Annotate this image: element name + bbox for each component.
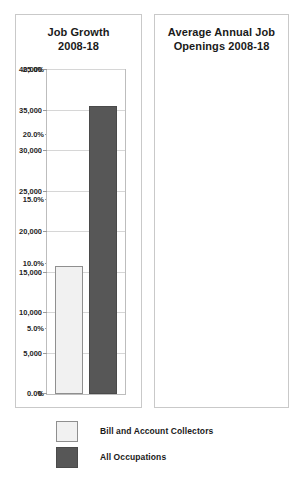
- bar-all-occupations: [89, 106, 117, 394]
- chart-figure: Job Growth 2008-18 0.0%5.0%10.0%15.0%20.…: [0, 0, 304, 486]
- legend-item-label: All Occupations: [100, 452, 166, 462]
- chart-title-line-1: Job Growth: [47, 26, 109, 38]
- legend-swatch-icon: [56, 421, 78, 442]
- chart-title-job-growth: Job Growth 2008-18: [16, 25, 141, 53]
- chart-panel-job-openings: Average Annual Job Openings 2008-18: [154, 14, 289, 408]
- y-axis-tick-label: 30,000: [19, 147, 42, 155]
- y-axis-tick-mark: [43, 393, 47, 394]
- plot-area-job-openings: 05,00010,00015,00020,00025,00030,00035,0…: [46, 69, 126, 395]
- y-axis-tick-label: 20.0%: [23, 131, 44, 139]
- y-axis-tick-label: 0: [38, 390, 42, 398]
- legend-item-all-occupations: All Occupations: [56, 444, 286, 470]
- y-axis-tick-label: 20,000: [19, 228, 42, 236]
- gridline: [47, 69, 125, 70]
- y-axis-tick-mark: [43, 312, 47, 313]
- y-axis-tick-label: 5,000: [23, 350, 42, 358]
- legend-item-bill-and-account-collectors: Bill and Account Collectors: [56, 418, 286, 444]
- y-axis-tick-mark: [43, 231, 47, 232]
- y-axis-tick-mark: [43, 272, 47, 273]
- y-axis-tick-label: 5.0%: [27, 325, 44, 333]
- y-axis-tick-label: 15,000: [19, 269, 42, 277]
- y-axis-tick-mark: [43, 69, 47, 70]
- chart-title-job-openings: Average Annual Job Openings 2008-18: [155, 25, 288, 53]
- bar-bill-and-account-collectors: [55, 266, 83, 394]
- y-axis-tick-label: 35,000: [19, 107, 42, 115]
- y-axis-tick-mark: [43, 191, 47, 192]
- legend: Bill and Account Collectors All Occupati…: [56, 418, 286, 470]
- y-axis-tick-label: 25,000: [19, 188, 42, 196]
- legend-swatch-icon: [56, 447, 78, 468]
- chart-title-line-2: Openings 2008-18: [155, 39, 288, 53]
- legend-item-label: Bill and Account Collectors: [100, 426, 213, 436]
- y-axis-tick-mark: [43, 150, 47, 151]
- y-axis-tick-label: 10,000: [19, 309, 42, 317]
- y-axis-tick-label: 40,000: [19, 66, 42, 74]
- y-axis-tick-label: 15.0%: [23, 196, 44, 204]
- chart-title-line-2: 2008-18: [16, 39, 141, 53]
- y-axis-tick-mark: [43, 110, 47, 111]
- chart-title-line-1: Average Annual Job: [168, 26, 275, 38]
- y-axis-tick-label: 10.0%: [23, 260, 44, 268]
- y-axis-tick-mark: [43, 353, 47, 354]
